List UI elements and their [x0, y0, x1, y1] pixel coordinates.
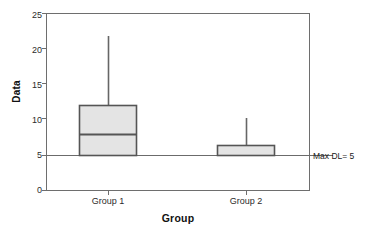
group-2-box — [218, 146, 275, 156]
x-tick-label-group-2: Group 2 — [206, 196, 286, 206]
plot-area — [0, 0, 365, 233]
boxplot-figure: Data 25 20 15 10 5 0 — [0, 0, 365, 233]
max-dl-label: Max DL= 5 — [313, 151, 354, 161]
group-1-box — [80, 106, 137, 156]
x-tick-label-group-1: Group 1 — [68, 196, 148, 206]
x-axis-title: Group — [46, 212, 310, 224]
